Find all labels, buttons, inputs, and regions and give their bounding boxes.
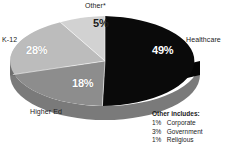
footnote-name-religious: Religious xyxy=(167,136,194,145)
pie-chart: Other* K-12 Higher Ed Healthcare 49% 28%… xyxy=(0,0,233,147)
slice-label-other: Other* xyxy=(85,2,106,10)
footnote-pct-religious: 1% xyxy=(152,136,165,145)
footnote-pct-corporate: 1% xyxy=(152,119,165,128)
footnote-name-corporate: Corporate xyxy=(167,119,196,128)
slice-label-higher-ed: Higher Ed xyxy=(30,108,62,116)
footnote-name-government: Government xyxy=(167,128,203,137)
slice-label-healthcare: Healthcare xyxy=(186,36,221,44)
slice-value-other: 5% xyxy=(93,17,109,29)
slice-value-healthcare: 49% xyxy=(152,44,173,56)
footnote-row-corporate: 1% Corporate xyxy=(152,119,203,128)
other-includes-footnote: Other includes: 1% Corporate 3% Governme… xyxy=(152,110,203,145)
slice-value-k12: 28% xyxy=(26,44,47,56)
footnote-row-government: 3% Government xyxy=(152,128,203,137)
footnote-row-religious: 1% Religious xyxy=(152,136,203,145)
footnote-title: Other includes: xyxy=(152,110,203,119)
slice-label-k12: K-12 xyxy=(2,36,17,44)
footnote-pct-government: 3% xyxy=(152,128,165,137)
pie-graphic xyxy=(8,14,202,122)
slice-value-higher-ed: 18% xyxy=(72,77,93,89)
